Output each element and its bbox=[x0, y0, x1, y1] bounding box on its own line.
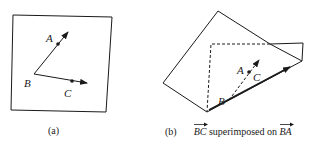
point-ac-dot bbox=[247, 70, 251, 74]
label-c-panel-b: C bbox=[253, 72, 260, 83]
vector-ba-notation: BA bbox=[280, 127, 292, 137]
vector-bc-a bbox=[34, 74, 87, 83]
paper-sheet-a bbox=[11, 15, 112, 112]
vector-arrow-icon bbox=[280, 122, 294, 127]
vector-ba-label: BA bbox=[280, 126, 292, 137]
caption-a: (a) bbox=[48, 126, 59, 136]
panel-b-figure bbox=[163, 11, 303, 112]
caption-b-middle: superimposed on bbox=[209, 126, 277, 137]
label-c-panel-a: C bbox=[64, 88, 71, 99]
point-a-dot bbox=[56, 42, 60, 46]
label-a-panel-a: A bbox=[46, 33, 53, 44]
panel-a-figure bbox=[11, 15, 112, 112]
caption-b-prefix: (b) bbox=[165, 126, 177, 137]
hidden-edge-dashed bbox=[207, 44, 270, 112]
fold-edge bbox=[270, 44, 302, 61]
point-c-dot bbox=[70, 79, 74, 83]
caption-b: (b) BC superimposed on BA bbox=[165, 127, 292, 137]
vector-bc-label: BC bbox=[194, 126, 207, 137]
vector-arrow-icon bbox=[194, 122, 208, 127]
vector-bc-notation: BC bbox=[194, 127, 207, 137]
label-b-panel-b: B bbox=[218, 96, 225, 107]
label-b-panel-a: B bbox=[24, 78, 31, 89]
label-a-panel-b: A bbox=[237, 65, 244, 76]
